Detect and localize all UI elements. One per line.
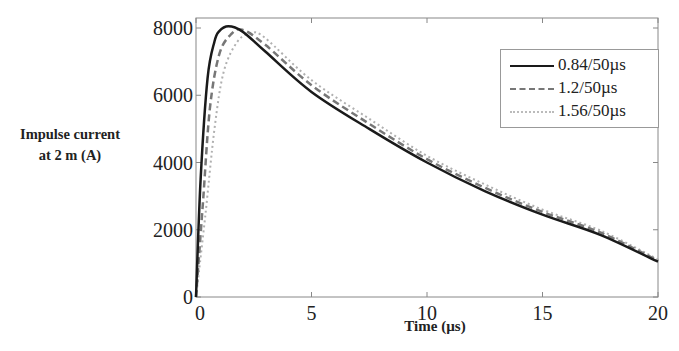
dotted-line-swatch <box>510 111 554 113</box>
y-tick-label: 6000 <box>153 84 193 106</box>
y-tick-label: 8000 <box>153 17 193 39</box>
y-tick-label: 2000 <box>153 219 193 241</box>
y-tick-label: 0 <box>183 286 193 308</box>
x-axis-label: Time (µs) <box>360 318 510 335</box>
legend-label: 0.84/50µs <box>558 54 626 76</box>
solid-line-swatch <box>510 65 554 67</box>
legend-label: 1.56/50µs <box>558 100 626 122</box>
y-tick-label: 4000 <box>153 152 193 174</box>
legend-item-12: 1.2/50µs <box>501 77 658 99</box>
x-tick-label: 20 <box>648 302 668 324</box>
legend-item-084: 0.84/50µs <box>501 54 658 76</box>
legend-item-156: 1.56/50µs <box>501 100 658 122</box>
legend: 0.84/50µs 1.2/50µs 1.56/50µs <box>500 49 659 128</box>
x-tick-label: 0 <box>195 302 205 324</box>
x-tick-label: 5 <box>307 302 317 324</box>
legend-label: 1.2/50µs <box>558 77 617 99</box>
y-axis-label: Impulse current at 2 m (A) <box>0 124 140 166</box>
x-tick-label: 15 <box>533 302 553 324</box>
y-axis-label-line2: at 2 m (A) <box>0 145 140 166</box>
y-axis-label-line1: Impulse current <box>0 124 140 145</box>
dashed-line-swatch <box>510 88 554 90</box>
